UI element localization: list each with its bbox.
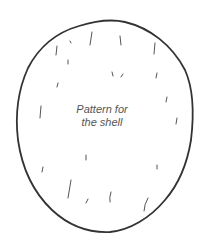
caption-line-2: the shell bbox=[0, 116, 204, 129]
caption-line-1: Pattern for bbox=[0, 103, 204, 116]
pattern-caption: Pattern for the shell bbox=[0, 103, 204, 129]
